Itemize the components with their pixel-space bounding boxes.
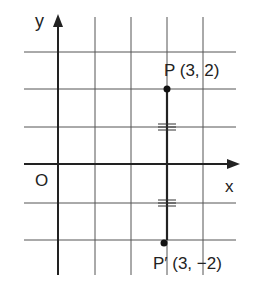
point-p-prime xyxy=(161,240,168,247)
point-p-prime-label: P′ (3, −2) xyxy=(153,255,222,272)
y-axis-arrow-icon xyxy=(53,14,63,27)
x-axis-label: x xyxy=(225,178,234,195)
grid-vertical-lines xyxy=(95,17,203,275)
y-axis-label: y xyxy=(35,12,44,30)
grid-horizontal-lines xyxy=(24,52,236,240)
point-p xyxy=(164,86,171,93)
x-axis xyxy=(24,159,240,169)
y-axis xyxy=(53,14,63,275)
point-p-label: P (3, 2) xyxy=(164,62,219,79)
origin-label: O xyxy=(35,172,48,189)
coordinate-plane xyxy=(0,0,261,295)
x-axis-arrow-icon xyxy=(227,159,240,169)
